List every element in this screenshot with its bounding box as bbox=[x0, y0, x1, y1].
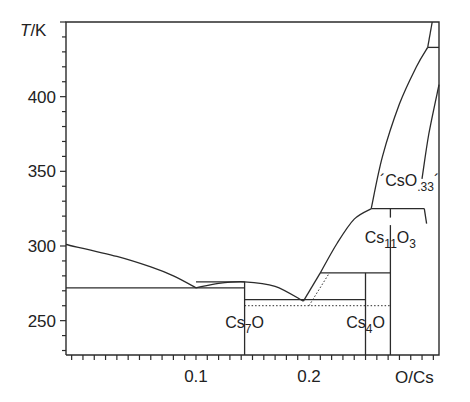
phase-boundary-CsO33-right-tick bbox=[424, 209, 426, 224]
y-tick-label: 350 bbox=[28, 162, 56, 181]
x-axis: 0.10.2 bbox=[72, 355, 434, 386]
phase-boundary-Cs7O-liquidus bbox=[196, 282, 303, 302]
y-tick-label: 250 bbox=[28, 312, 56, 331]
phase-label: Cs4O bbox=[346, 314, 385, 336]
phase-label: Cs7O bbox=[225, 314, 264, 336]
phase-boundary-liquidus-Cs4O bbox=[303, 273, 320, 301]
phase-label: ´CsO.33´ bbox=[380, 172, 439, 194]
y-axis: 250300350400 bbox=[28, 22, 66, 351]
y-tick-label: 300 bbox=[28, 237, 56, 256]
phase-diagram-chart: 250300350400 0.10.2 Cs7OCs4OCs11O3´CsO.3… bbox=[0, 0, 470, 402]
x-axis-label: O/Cs bbox=[395, 368, 434, 387]
y-axis-label: T/K bbox=[20, 21, 47, 40]
phase-boundary-metastable-liquidus bbox=[309, 273, 329, 306]
x-tick-label: 0.1 bbox=[184, 367, 208, 386]
y-tick-label: 400 bbox=[28, 88, 56, 107]
phase-boundary-liquidus-Cs11O3 bbox=[320, 209, 371, 273]
phase-boundary-upper-liquidus bbox=[428, 22, 433, 47]
phase-boundary-liquidus-Cs-side bbox=[66, 245, 196, 288]
phase-boundary-CsO33-solvus bbox=[422, 85, 439, 179]
phase-labels: Cs7OCs4OCs11O3´CsO.33´ bbox=[225, 172, 439, 336]
x-tick-label: 0.2 bbox=[297, 367, 321, 386]
